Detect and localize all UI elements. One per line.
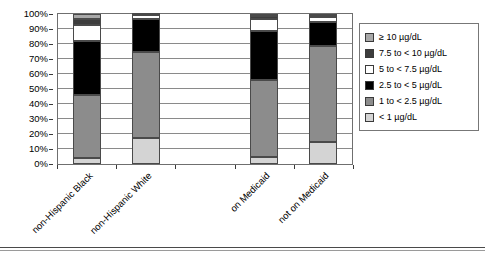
bar-segment xyxy=(73,158,101,164)
y-tick-label: 80% xyxy=(29,39,48,49)
legend-swatch-icon xyxy=(365,65,374,74)
bar-slot xyxy=(176,14,235,164)
x-axis-labels: non-Hispanic Blacknon-Hispanic Whiteon M… xyxy=(0,168,360,248)
bar-segment xyxy=(73,95,101,158)
bar-slot xyxy=(117,14,176,164)
bar-segment xyxy=(250,31,278,81)
bar-segment xyxy=(132,15,160,19)
plot-area xyxy=(57,13,353,165)
bar-1[interactable] xyxy=(73,14,101,164)
bar-segment xyxy=(73,14,101,19)
bar-segment xyxy=(309,142,337,165)
legend-label: 2.5 to < 5 µg/dL xyxy=(379,81,442,90)
y-tick-mark xyxy=(49,134,53,135)
legend-swatch-icon xyxy=(365,113,374,122)
legend-label: 7.5 to < 10 µg/dL xyxy=(379,49,447,58)
legend-swatch-icon xyxy=(365,97,374,106)
y-tick-label: 40% xyxy=(29,99,48,109)
legend-item[interactable]: ≥ 10 µg/dL xyxy=(365,29,474,45)
bar-slot xyxy=(58,14,117,164)
legend-item[interactable]: 7.5 to < 10 µg/dL xyxy=(365,45,474,61)
y-tick-label: 20% xyxy=(29,129,48,139)
y-tick-mark xyxy=(49,14,53,15)
bar-segment xyxy=(309,46,337,142)
page-rule-bottom xyxy=(0,250,485,251)
y-tick-label: 90% xyxy=(29,24,48,34)
legend-item[interactable]: < 1 µg/dL xyxy=(365,109,474,125)
bar-slot xyxy=(293,14,352,164)
page-rule-top xyxy=(0,247,485,248)
y-tick-mark xyxy=(49,119,53,120)
legend-label: < 1 µg/dL xyxy=(379,113,417,122)
y-tick-mark xyxy=(49,59,53,60)
y-tick-label: 10% xyxy=(29,144,48,154)
legend-item[interactable]: 5 to < 7.5 µg/dL xyxy=(365,61,474,77)
legend-item[interactable]: 2.5 to < 5 µg/dL xyxy=(365,77,474,93)
legend-label: 5 to < 7.5 µg/dL xyxy=(379,65,442,74)
bar-segment xyxy=(132,138,160,164)
legend-label: ≥ 10 µg/dL xyxy=(379,33,422,42)
legend-label: 1 to < 2.5 µg/dL xyxy=(379,97,442,106)
legend-swatch-icon xyxy=(365,33,374,42)
bar-segment xyxy=(250,14,278,16)
y-tick-label: 70% xyxy=(29,54,48,64)
y-tick-label: 60% xyxy=(29,69,48,79)
bar-segment xyxy=(309,22,337,46)
bar-slot xyxy=(234,14,293,164)
legend-swatch-icon xyxy=(365,49,374,58)
y-axis: 100%90%80%70%60%50%40%30%20%10%0% xyxy=(0,13,53,165)
y-tick-mark xyxy=(49,29,53,30)
legend-swatch-icon xyxy=(365,81,374,90)
y-tick-mark xyxy=(49,74,53,75)
y-tick-label: 30% xyxy=(29,114,48,124)
bar-2[interactable] xyxy=(132,14,160,164)
y-tick-mark xyxy=(49,149,53,150)
bar-segment xyxy=(250,157,278,165)
chart-legend: ≥ 10 µg/dL7.5 to < 10 µg/dL5 to < 7.5 µg… xyxy=(359,23,479,131)
bar-segment xyxy=(250,16,278,19)
bar-segment xyxy=(73,19,101,25)
bar-segment xyxy=(309,14,337,16)
bar-segment xyxy=(132,13,160,15)
bar-segment xyxy=(250,19,278,31)
bar-segment xyxy=(250,80,278,157)
y-tick-label: 50% xyxy=(29,84,48,94)
y-tick-mark xyxy=(49,104,53,105)
bar-5[interactable] xyxy=(309,14,337,164)
legend-item[interactable]: 1 to < 2.5 µg/dL xyxy=(365,93,474,109)
bar-segment xyxy=(73,41,101,95)
bar-segment xyxy=(132,52,160,138)
stacked-bar-chart: 100%90%80%70%60%50%40%30%20%10%0% non-Hi… xyxy=(0,0,485,258)
bar-segment xyxy=(73,25,101,42)
bar-segment xyxy=(309,17,337,22)
y-tick-mark xyxy=(49,44,53,45)
y-tick-label: 100% xyxy=(24,9,48,19)
bar-segment xyxy=(132,19,160,52)
y-tick-mark xyxy=(49,89,53,90)
bar-4[interactable] xyxy=(250,14,278,164)
y-tick-mark xyxy=(49,164,53,165)
